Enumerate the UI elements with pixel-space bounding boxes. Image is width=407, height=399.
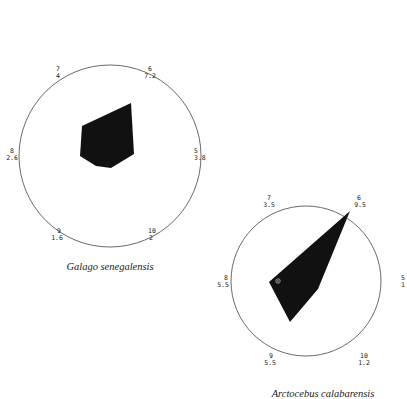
axis-label-value: 3.8 <box>194 154 206 162</box>
diagram-galago: 7 4 6 7.2 8 2.6 5 3.8 9 1.6 10 2 Galago … <box>6 65 206 272</box>
axis-label-value: 7.2 <box>144 72 156 80</box>
axis-label-value: 5.5 <box>217 281 229 289</box>
species-caption: Arctocebus calabarensis <box>271 388 375 399</box>
species-caption: Galago senegalensis <box>66 261 153 272</box>
axis-label-value: 5.5 <box>264 359 276 367</box>
axis-label-value: 9.5 <box>354 201 366 209</box>
axis-label-value: 4 <box>56 72 60 80</box>
axis-label-value: 3.5 <box>263 201 275 209</box>
diagram-arctocebus: 7 3.5 6 9.5 8 5.5 5 1 9 5.5 10 1.2 Arcto… <box>217 194 405 399</box>
marker-dot-icon <box>277 280 279 282</box>
axis-label-value: 1.2 <box>358 359 370 367</box>
axis-label-value: 1 <box>401 281 405 289</box>
figure-canvas: 7 4 6 7.2 8 2.6 5 3.8 9 1.6 10 2 Galago … <box>0 0 407 399</box>
axis-label-value: 2.6 <box>6 154 18 162</box>
axis-label-value: 2 <box>149 234 153 242</box>
activity-polygon <box>80 103 134 168</box>
axis-label-value: 1.6 <box>51 234 63 242</box>
activity-polygon <box>269 211 350 322</box>
